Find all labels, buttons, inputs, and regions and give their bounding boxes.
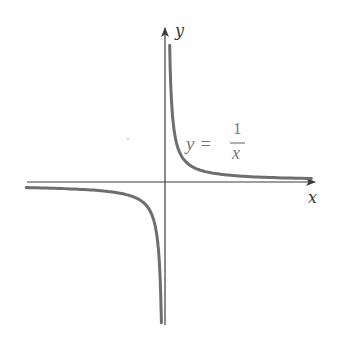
equation-lhs: y = [184,133,212,154]
y-axis-label: y [174,21,185,40]
equation-annotation: y = 1 x [184,119,245,163]
curve-negative-branch [26,188,161,323]
hyperbola-chart: y x y = 1 x [0,0,337,339]
curve-positive-branch [170,45,312,178]
equation-numerator: 1 [233,119,242,138]
x-axis-label: x [308,188,317,207]
speck [127,138,128,139]
equation-denominator: x [231,143,240,163]
